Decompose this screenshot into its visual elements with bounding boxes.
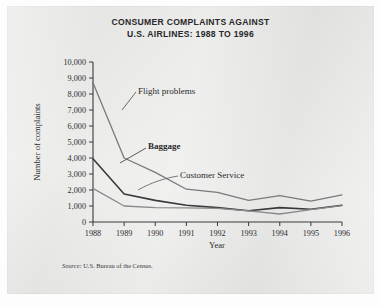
x-tick-label: 1989: [116, 229, 132, 238]
figure-page: CONSUMER COMPLAINTS AGAINST U.S. AIRLINE…: [0, 0, 381, 306]
source-value: U.S. Bureau of the Census.: [83, 262, 152, 269]
y-tick-label: 1,000: [68, 202, 86, 211]
series-line-baggage: [93, 159, 342, 211]
series-label-baggage: Baggage: [148, 141, 181, 151]
x-axis-ticks: [93, 222, 342, 226]
chart-canvas: 01,0002,0003,0004,0005,0006,0007,0008,00…: [0, 0, 381, 306]
y-tick-label: 4,000: [68, 154, 86, 163]
y-tick-label: 0: [82, 218, 86, 227]
source-note: Source: U.S. Bureau of the Census.: [62, 262, 153, 269]
y-axis-ticks: [89, 62, 93, 222]
leader-line-customer-service: [138, 176, 178, 190]
x-tick-label: 1992: [209, 229, 225, 238]
y-axis-title: Number of complaints: [32, 103, 42, 181]
series-label-flight-problems: Flight problems: [138, 86, 196, 96]
y-tick-label: 2,000: [68, 186, 86, 195]
series-line-flight-problems: [93, 83, 342, 201]
x-axis-title: Year: [209, 240, 225, 250]
x-tick-label: 1990: [147, 229, 163, 238]
y-tick-label: 10,000: [63, 58, 86, 67]
x-tick-label: 1988: [85, 229, 101, 238]
x-tick-label: 1994: [272, 229, 288, 238]
source-label: Source:: [62, 262, 82, 269]
y-tick-label: 3,000: [68, 170, 86, 179]
x-tick-label: 1993: [240, 229, 256, 238]
leader-line-flight-problems: [122, 92, 136, 110]
x-axis-tick-labels: 198819891990199119921993199419951996: [85, 229, 350, 238]
y-tick-label: 7,000: [68, 106, 86, 115]
x-tick-label: 1996: [334, 229, 350, 238]
y-axis-tick-labels: 01,0002,0003,0004,0005,0006,0007,0008,00…: [63, 58, 86, 227]
series-label-customer-service: Customer Service: [180, 170, 244, 180]
y-tick-label: 8,000: [68, 90, 86, 99]
y-tick-label: 5,000: [68, 138, 86, 147]
y-tick-label: 6,000: [68, 122, 86, 131]
y-tick-label: 9,000: [68, 74, 86, 83]
series-lines: [93, 83, 342, 214]
x-tick-label: 1991: [178, 229, 194, 238]
leader-line-baggage: [120, 148, 146, 163]
x-tick-label: 1995: [303, 229, 319, 238]
